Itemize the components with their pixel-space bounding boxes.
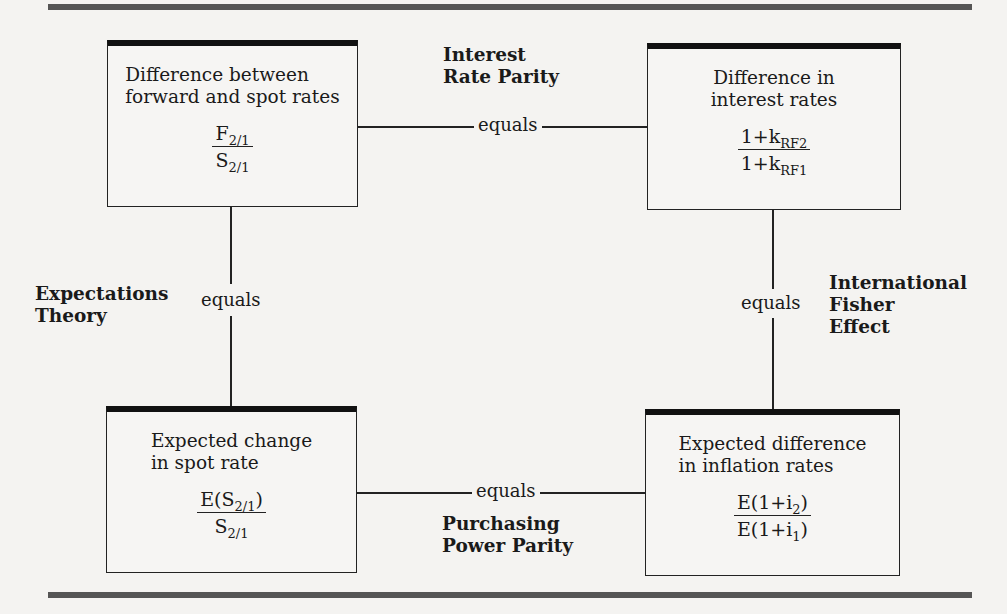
description-line: Expected change xyxy=(151,430,312,452)
top-rule xyxy=(48,4,972,10)
box-forward-spot-difference: Difference between forward and spot rate… xyxy=(107,40,358,207)
formula-numerator: E(1+i2) xyxy=(734,490,811,516)
formula-denominator: S2/1 xyxy=(213,147,253,172)
label-interest-rate-parity: Interest Rate Parity xyxy=(443,44,559,88)
connector-right-upper-segment xyxy=(772,209,774,289)
formula-fraction: E(1+i2) E(1+i1) xyxy=(734,490,811,541)
equals-label-right: equals xyxy=(737,293,805,313)
equals-label-bottom: equals xyxy=(472,481,540,501)
bottom-rule xyxy=(48,592,972,598)
description-line: forward and spot rates xyxy=(125,86,339,108)
description-line: Difference in xyxy=(711,67,838,89)
formula-numerator: E(S2/1) xyxy=(197,487,266,513)
formula-denominator: S2/1 xyxy=(212,513,252,538)
connector-right-lower-segment xyxy=(772,318,774,409)
description-line: Expected difference xyxy=(678,433,866,455)
formula-denominator: E(1+i1) xyxy=(734,516,811,541)
formula-denominator: 1+kRF1 xyxy=(738,150,811,175)
equals-label-top: equals xyxy=(474,115,542,135)
connector-top-right-segment xyxy=(538,126,647,128)
box-description: Expected change in spot rate xyxy=(151,430,312,474)
connector-bottom-left-segment xyxy=(356,492,473,494)
description-line: Difference between xyxy=(125,64,339,86)
label-purchasing-power-parity: Purchasing Power Parity xyxy=(442,513,573,557)
connector-left-upper-segment xyxy=(230,206,232,284)
description-line: in spot rate xyxy=(151,452,312,474)
equals-label-left: equals xyxy=(197,290,265,310)
description-line: in inflation rates xyxy=(678,455,866,477)
label-international-fisher-effect: International Fisher Effect xyxy=(829,272,967,338)
box-description: Difference between forward and spot rate… xyxy=(125,64,339,108)
box-inflation-difference: Expected difference in inflation rates E… xyxy=(645,409,900,576)
box-interest-rate-difference: Difference in interest rates 1+kRF2 1+kR… xyxy=(647,43,901,210)
connector-bottom-right-segment xyxy=(538,492,645,494)
label-expectations-theory: Expectations Theory xyxy=(35,283,168,327)
connector-top-left-segment xyxy=(357,126,475,128)
box-description: Difference in interest rates xyxy=(711,67,838,111)
description-line: interest rates xyxy=(711,89,838,111)
formula-numerator: 1+kRF2 xyxy=(738,124,811,150)
formula-fraction: F2/1 S2/1 xyxy=(212,121,252,172)
formula-numerator: F2/1 xyxy=(212,121,252,147)
box-expected-spot-change: Expected change in spot rate E(S2/1) S2/… xyxy=(106,406,357,573)
box-description: Expected difference in inflation rates xyxy=(678,433,866,477)
connector-left-lower-segment xyxy=(230,316,232,406)
formula-fraction: 1+kRF2 1+kRF1 xyxy=(738,124,811,175)
formula-fraction: E(S2/1) S2/1 xyxy=(197,487,266,538)
